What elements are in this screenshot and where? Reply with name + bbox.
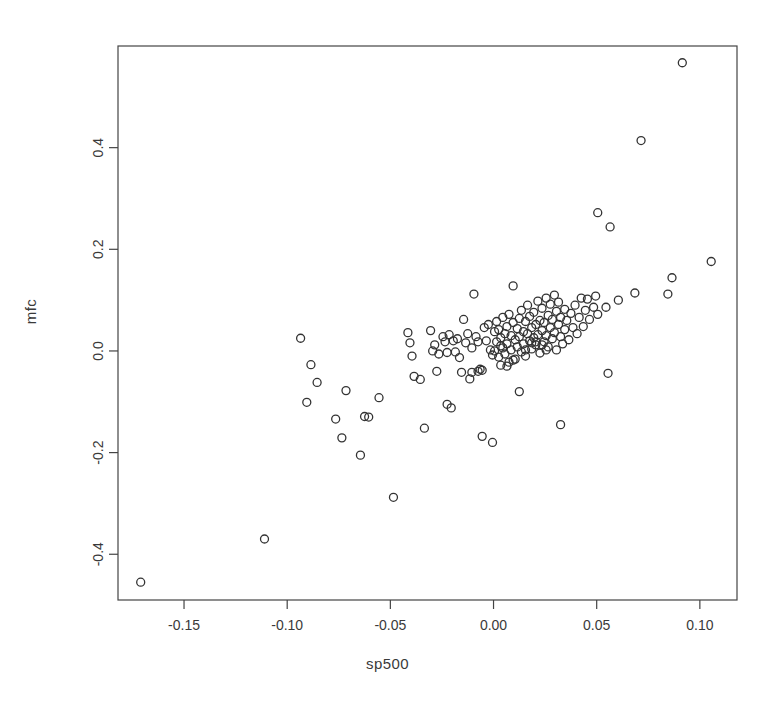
svg-text:0.00: 0.00 bbox=[480, 617, 507, 633]
x-axis-label: sp500 bbox=[0, 655, 775, 672]
y-axis-label: mfc bbox=[22, 262, 39, 362]
svg-text:0.0: 0.0 bbox=[90, 341, 106, 361]
chart-canvas: -0.15-0.10-0.050.000.050.10 -0.4-0.20.00… bbox=[0, 0, 775, 721]
svg-text:0.10: 0.10 bbox=[686, 617, 713, 633]
svg-text:-0.4: -0.4 bbox=[90, 542, 106, 566]
svg-text:-0.15: -0.15 bbox=[168, 617, 200, 633]
svg-text:-0.2: -0.2 bbox=[90, 440, 106, 464]
svg-text:0.2: 0.2 bbox=[90, 239, 106, 259]
svg-text:0.05: 0.05 bbox=[583, 617, 610, 633]
scatter-plot-figure: -0.15-0.10-0.050.000.050.10 -0.4-0.20.00… bbox=[0, 0, 775, 721]
figure-background bbox=[0, 0, 775, 721]
svg-text:-0.05: -0.05 bbox=[374, 617, 406, 633]
svg-text:0.4: 0.4 bbox=[90, 138, 106, 158]
svg-text:-0.10: -0.10 bbox=[271, 617, 303, 633]
